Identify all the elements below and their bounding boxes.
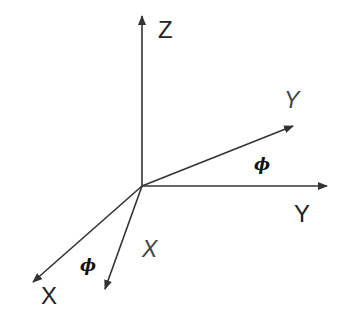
z-axis-label: Z: [158, 18, 173, 42]
y-rotated-axis-label: Y: [284, 89, 299, 112]
phi-angle-label-y: ϕ: [254, 156, 270, 173]
y-rotated-axis-line: [142, 126, 293, 186]
phi-angle-label-x: ϕ: [80, 257, 96, 274]
coordinate-axes-diagram: [0, 0, 345, 324]
x-rotated-axis-label: X: [142, 238, 157, 261]
x-axis-label: X: [41, 284, 57, 308]
y-axis-label: Y: [294, 202, 310, 226]
